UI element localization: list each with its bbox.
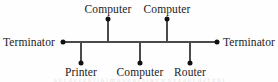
- clipped-caption-sliver: a b c d e f g h i j k l m n o p q r s t …: [0, 77, 278, 82]
- terminator-left-label: Terminator: [3, 36, 55, 48]
- computer-top-right-dot: [165, 17, 170, 22]
- terminator-left-dot: [61, 40, 66, 45]
- terminator-right-dot: [215, 40, 220, 45]
- printer-dot: [79, 61, 84, 66]
- stub-computer-top-left: [107, 19, 109, 42]
- computer-top-right-label: Computer: [144, 3, 191, 15]
- terminator-right-label: Terminator: [223, 36, 275, 48]
- computer-top-left-label: Computer: [85, 3, 132, 15]
- computer-top-left-dot: [106, 17, 111, 22]
- router-dot: [188, 61, 193, 66]
- bus-topology-diagram: Terminator Terminator Computer Computer …: [0, 0, 278, 82]
- computer-bottom-dot: [138, 61, 143, 66]
- stub-computer-top-right: [166, 19, 168, 42]
